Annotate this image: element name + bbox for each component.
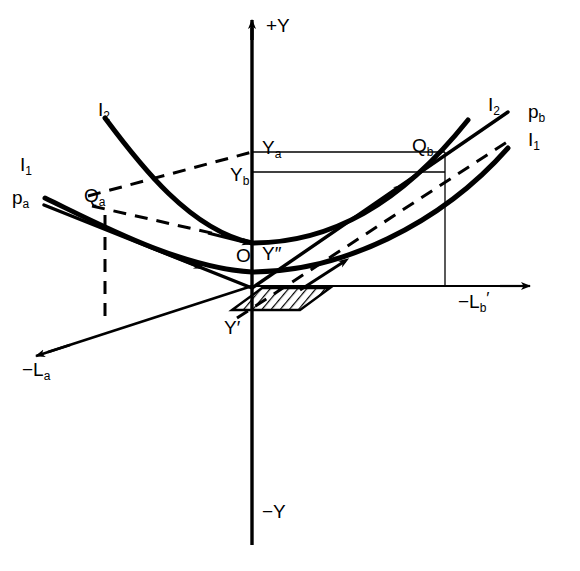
curve-label-i1-right-sub: 1	[533, 139, 540, 153]
diagram-canvas	[0, 0, 580, 571]
income-label-ya: Ya	[262, 138, 281, 157]
axis-label-lb-prime: −Lb′	[458, 292, 490, 311]
budget-label-pb-sub: b	[539, 111, 546, 125]
axis-label-y-negative: −Y	[262, 502, 286, 521]
curve-label-i2-right: I2	[488, 95, 500, 114]
budget-label-pb: pb	[528, 102, 545, 121]
axis-label-y-positive: +Y	[266, 16, 290, 35]
axes-group	[36, 20, 530, 545]
income-label-yb: Yb	[230, 165, 249, 184]
curve-label-i2-left-sub: 2	[103, 109, 110, 123]
pb-direction-arrow	[360, 187, 400, 215]
point-label-qa-sub: a	[99, 195, 106, 209]
income-label-yb-sub: b	[243, 174, 250, 188]
income-label-yb-base: Y	[230, 164, 243, 185]
curve-label-i2-right-sub: 2	[493, 104, 500, 118]
point-label-qa: Qa	[84, 186, 105, 205]
income-label-ya-sub: a	[275, 147, 282, 161]
y-prime-label: Y′	[224, 318, 240, 337]
income-label-ya-base: Y	[262, 137, 275, 158]
curve-label-i1-right: I1	[528, 130, 540, 149]
budget-label-pa-sub: a	[23, 197, 30, 211]
point-label-qa-base: Q	[84, 185, 99, 206]
x-axis-left-arrow	[36, 345, 70, 356]
x-axis-left	[48, 286, 252, 352]
budget-label-pa: pa	[12, 188, 29, 207]
line-pa-left	[44, 205, 252, 288]
budget-label-pb-base: p	[528, 101, 539, 122]
axis-label-la-sub: a	[44, 369, 51, 383]
hatched-region	[232, 288, 330, 310]
pa-direction-arrow	[150, 247, 200, 267]
point-label-qb-sub: b	[427, 145, 434, 159]
dashed-qa-to-ya	[88, 152, 252, 196]
axis-label-la: −La	[22, 360, 50, 379]
axis-label-lb-prime-mark: ′	[486, 289, 489, 308]
point-label-qb: Qb	[412, 136, 433, 155]
curve-label-i1-left: I1	[20, 155, 32, 174]
axis-label-lb-main: −L	[458, 291, 480, 312]
y-double-prime-label: Y″	[262, 244, 281, 263]
curve-label-i2-left: I2	[98, 100, 110, 119]
budget-label-pa-base: p	[12, 187, 23, 208]
axis-label-la-main: −L	[22, 359, 44, 380]
diagram-figure: +Y −Y −Lb′ −La O Y″ Y′ Ya Yb Qa Qb I1 I2…	[0, 0, 580, 571]
point-label-qb-base: Q	[412, 135, 427, 156]
curve-label-i1-left-sub: 1	[25, 164, 32, 178]
hatched-parallelogram	[232, 288, 330, 310]
origin-label: O	[236, 246, 251, 265]
